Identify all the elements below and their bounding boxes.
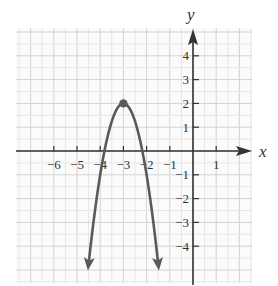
y-tick-label: 4 — [183, 48, 190, 63]
x-tick-label: 1 — [213, 157, 220, 172]
y-axis-label: y — [185, 5, 195, 24]
x-tick-label: −5 — [70, 157, 84, 172]
vertex-point — [119, 99, 127, 107]
y-tick-label: −3 — [175, 215, 189, 230]
x-tick-label: −6 — [47, 157, 61, 172]
y-tick-label: −4 — [175, 239, 189, 254]
x-tick-label: −3 — [116, 157, 130, 172]
y-tick-label: 2 — [183, 96, 190, 111]
y-tick-label: 1 — [183, 120, 190, 135]
y-tick-label: −2 — [175, 191, 189, 206]
y-tick-label: −1 — [175, 167, 189, 182]
grid-lines — [16, 28, 252, 283]
y-tick-label: 3 — [183, 72, 190, 87]
x-axis-label: x — [258, 142, 267, 161]
parabola-graph: −6−5−4−3−2−114321−1−2−3−4 x y — [0, 0, 278, 286]
